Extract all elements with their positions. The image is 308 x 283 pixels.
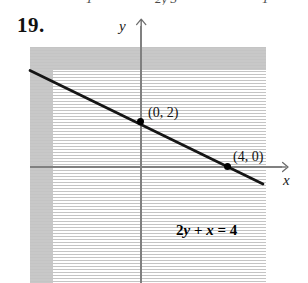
equation-plus: + [190, 222, 206, 238]
equation-var-x: x [206, 222, 214, 238]
plotted-line [0, 0, 308, 283]
equation-constant: 4 [230, 222, 238, 238]
equation-coef-y: 2 [176, 222, 184, 238]
point-dot-x-intercept [224, 163, 231, 170]
worksheet-problem-figure: 1 2y 3 1 19. y x (0, 2) (4, 0) 2y + x = … [0, 0, 308, 283]
equation-equals: = [214, 222, 230, 238]
point-label-y-intercept: (0, 2) [148, 105, 178, 121]
coordinate-graph: y x (0, 2) (4, 0) 2y + x = 4 [0, 0, 308, 283]
equation-label: 2y + x = 4 [176, 222, 237, 239]
point-label-x-intercept: (4, 0) [233, 149, 263, 165]
point-dot-y-intercept [137, 118, 144, 125]
